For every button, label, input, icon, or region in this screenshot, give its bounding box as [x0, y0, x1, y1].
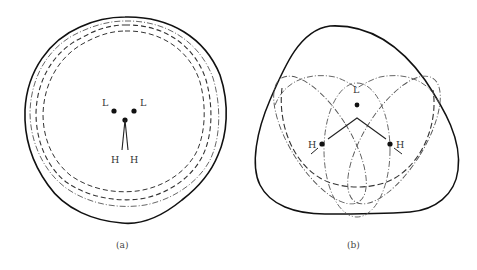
panel-b-dashdot-lobe-left — [256, 62, 384, 218]
panel-a-label-l-right: L — [140, 97, 147, 108]
panel-b-caption: (b) — [347, 240, 360, 250]
panel-a-bond-right — [125, 120, 128, 150]
panel-a-dashdot-contour — [30, 21, 219, 206]
panel-b-hydrogen-right-dot — [387, 141, 392, 146]
panel-a-lone-pair-left-dot — [111, 108, 116, 113]
panel-a-label-h-right: H — [130, 154, 138, 165]
panel-a-bond-left — [122, 120, 125, 150]
panel-b-label-h-right: H — [396, 139, 404, 150]
panel-a: L L H H (a) — [25, 17, 226, 250]
panel-b: L H H (b) — [255, 26, 458, 250]
panel-b-lone-pair-dot — [355, 103, 360, 108]
panel-b-label-l: L — [353, 84, 360, 95]
panel-a-label-l-left: L — [102, 97, 109, 108]
figure-canvas: L L H H (a) L H — [0, 0, 477, 270]
panel-b-dashdot-lobe-right — [330, 62, 458, 218]
panel-b-bond-angle — [328, 118, 386, 139]
panel-b-label-h-left: H — [308, 139, 316, 150]
panel-a-dashed-contour-inner — [43, 31, 204, 192]
panel-b-solid-contour — [255, 26, 458, 214]
molecule-contour-figure: L L H H (a) L H — [0, 0, 477, 270]
panel-a-caption: (a) — [116, 240, 128, 250]
panel-a-label-h-left: H — [111, 154, 119, 165]
panel-a-dashed-contour-outer — [36, 25, 211, 200]
panel-b-hydrogen-left-dot — [319, 141, 324, 146]
panel-a-lone-pair-right-dot — [131, 108, 136, 113]
